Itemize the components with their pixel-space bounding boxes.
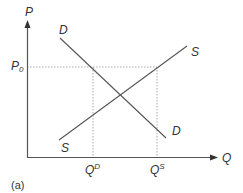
- qd-guide-line: [93, 67, 157, 157]
- supply-label-bottom: S: [61, 142, 69, 154]
- p0-label: P0: [11, 60, 23, 74]
- p0-label-base: P: [11, 59, 19, 73]
- demand-label-top: D: [59, 24, 68, 36]
- demand-label-bottom: D: [172, 125, 181, 137]
- x-axis-arrow-icon: [210, 155, 218, 161]
- qs-label: QS: [150, 163, 165, 176]
- qs-label-sup: S: [159, 162, 164, 171]
- qd-label: QD: [85, 163, 100, 176]
- y-axis-label: P: [25, 6, 33, 18]
- supply-demand-diagram: P Q D D S S P0 QD QS (a): [0, 0, 243, 193]
- supply-curve: [59, 46, 187, 140]
- qd-label-sup: D: [94, 162, 100, 171]
- y-axis-arrow-icon: [25, 20, 31, 28]
- demand-curve: [60, 38, 166, 138]
- figure-caption: (a): [11, 180, 24, 191]
- diagram-canvas: [0, 0, 243, 193]
- qs-label-base: Q: [150, 163, 159, 177]
- supply-label-top: S: [191, 46, 199, 58]
- qd-label-base: Q: [85, 163, 94, 177]
- x-axis-label: Q: [222, 152, 231, 164]
- p0-label-sub: 0: [19, 65, 23, 74]
